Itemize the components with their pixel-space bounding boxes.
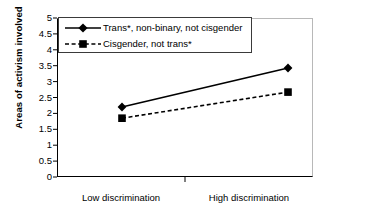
legend-label-trans: Trans*, non-binary, not cisgender xyxy=(103,23,242,33)
y-tick-label: 4 xyxy=(22,45,55,55)
y-tick-label: 3 xyxy=(22,77,55,87)
line-chart-figure: Areas of activism involved 5 4.5 4 3.5 3… xyxy=(0,0,377,219)
y-tick-label: 1.5 xyxy=(22,125,55,135)
y-tick-label: 2.5 xyxy=(22,93,55,103)
y-tick-label: 1 xyxy=(22,140,55,150)
legend-label-cisgender: Cisgender, not trans* xyxy=(103,39,192,49)
legend-item-cisgender: Cisgender, not trans* xyxy=(63,36,247,52)
legend-marker-diamond-icon xyxy=(63,21,103,35)
legend-marker-square-icon xyxy=(63,37,103,51)
y-tick-label: 4.5 xyxy=(22,29,55,39)
x-tick-label-low: Low discrimination xyxy=(57,192,185,203)
x-tick-label-high: High discrimination xyxy=(185,192,313,203)
y-axis-tick-labels: 5 4.5 4 3.5 3 2.5 2 1.5 1 0.5 0 xyxy=(22,0,55,219)
y-tick-label: 5 xyxy=(22,13,55,23)
y-tick-label: 3.5 xyxy=(22,61,55,71)
chart-legend: Trans*, non-binary, not cisgender Cisgen… xyxy=(58,17,252,53)
x-axis-tick-labels: Low discrimination High discrimination xyxy=(57,192,313,203)
y-tick-label: 2 xyxy=(22,109,55,119)
y-tick-label: 0.5 xyxy=(22,156,55,166)
y-tick-label: 0 xyxy=(22,172,55,182)
legend-item-trans: Trans*, non-binary, not cisgender xyxy=(63,20,247,36)
